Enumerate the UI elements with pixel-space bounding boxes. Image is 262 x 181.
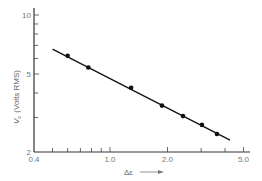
y-tick-label: 5 <box>27 70 32 79</box>
y-axis-label: Vc(Volts RMS) <box>12 70 22 124</box>
arrowhead-icon <box>158 170 164 174</box>
y-tick-label: 10 <box>22 11 31 20</box>
y-axis-label-subscript: c <box>16 116 22 119</box>
axes <box>34 8 250 152</box>
y-tick-label: 2 <box>27 148 32 157</box>
x-axis-label: Δε <box>124 168 133 177</box>
fit-line <box>53 49 231 140</box>
x-tick-label: 5.0 <box>238 155 250 164</box>
chart: 0.41.02.05.02510 Δε Vc(Volts RMS) <box>0 0 262 181</box>
data-series <box>53 49 231 140</box>
tick-labels: 0.41.02.05.02510 <box>22 11 250 164</box>
y-axis-label-units: (Volts RMS) <box>12 70 21 113</box>
x-tick-label: 2.0 <box>162 155 174 164</box>
x-tick-label: 1.0 <box>104 155 116 164</box>
